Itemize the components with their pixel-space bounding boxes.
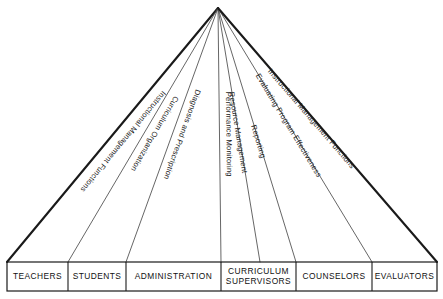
fan-ray-label-5: Reporting	[249, 124, 268, 160]
box-curriculum-supervisors[interactable]	[221, 262, 296, 291]
fan-ray-line-1	[68, 8, 218, 262]
box-students[interactable]	[68, 262, 126, 291]
ray-label-group: Instructional Management FunctionsCurric…	[79, 67, 357, 194]
fan-ray-label-2: Diagnosis and Prescription	[162, 88, 203, 180]
box-teachers[interactable]	[7, 262, 68, 291]
ray-line-group	[7, 8, 437, 262]
fan-diagram: Instructional Management FunctionsCurric…	[0, 0, 443, 299]
box-administration[interactable]	[126, 262, 221, 291]
bottom-caption	[0, 291, 443, 299]
fan-diagram-svg: Instructional Management FunctionsCurric…	[0, 0, 443, 299]
fan-ray-line-2	[126, 8, 218, 262]
fan-ray-line-3	[218, 8, 221, 262]
box-counselors[interactable]	[296, 262, 372, 291]
box-evaluators[interactable]	[372, 262, 437, 291]
